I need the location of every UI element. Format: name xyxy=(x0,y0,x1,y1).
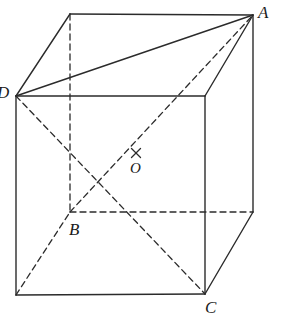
edge-top-right-slant xyxy=(205,15,253,96)
label-B: B xyxy=(69,221,79,238)
edge-bottom-right-slant xyxy=(205,212,253,294)
edge-bottom-left-slant xyxy=(16,212,70,295)
geometry-figure: ABCDO xyxy=(0,0,281,328)
edge-space-diagonal-B-A-via-O xyxy=(70,15,253,212)
edge-top-back xyxy=(70,14,253,15)
edge-top-left-slant xyxy=(16,14,70,96)
edge-space-diagonal-D-C-via-O xyxy=(16,96,205,294)
label-O: O xyxy=(130,161,141,176)
edge-diagonal-D-A xyxy=(16,15,253,96)
label-A: A xyxy=(258,4,268,21)
label-C: C xyxy=(205,299,216,316)
label-D: D xyxy=(0,84,9,101)
edge-front-bottom xyxy=(16,294,205,295)
point-markers-group xyxy=(132,149,141,158)
